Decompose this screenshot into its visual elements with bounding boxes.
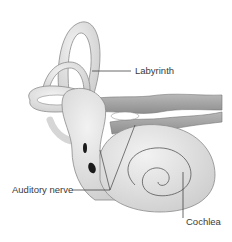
inner-ear-diagram: Labyrinth Auditory nerve Cochlea	[0, 0, 232, 242]
label-auditory-nerve: Auditory nerve	[12, 184, 73, 195]
label-labyrinth: Labyrinth	[135, 65, 174, 76]
cochlea	[100, 125, 215, 212]
label-cochlea: Cochlea	[186, 216, 222, 227]
dark-spot	[83, 143, 87, 153]
